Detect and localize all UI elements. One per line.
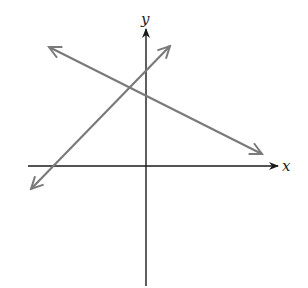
y-axis-label: y <box>140 10 150 28</box>
coordinate-diagram: y x <box>0 0 308 288</box>
increasing-line <box>31 46 170 189</box>
x-axis-label: x <box>282 157 291 175</box>
diagram-canvas: y x <box>0 0 308 288</box>
